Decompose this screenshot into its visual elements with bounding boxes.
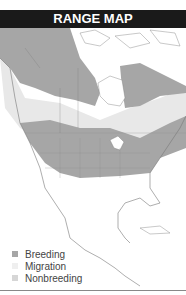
- bottom-divider: [0, 290, 186, 291]
- legend-item-breeding: Breeding: [12, 248, 82, 260]
- map-legend: Breeding Migration Nonbreeding: [12, 248, 82, 284]
- map-title: RANGE MAP: [0, 10, 186, 28]
- nonbreeding-swatch: [12, 275, 18, 281]
- migration-swatch: [12, 263, 18, 269]
- legend-label: Migration: [25, 261, 66, 272]
- legend-label: Breeding: [25, 249, 65, 260]
- legend-item-nonbreeding: Nonbreeding: [12, 272, 82, 284]
- breeding-swatch: [12, 251, 18, 257]
- legend-label: Nonbreeding: [25, 273, 82, 284]
- range-map-card: RANGE MAP Breeding Migration: [0, 0, 186, 295]
- legend-item-migration: Migration: [12, 260, 82, 272]
